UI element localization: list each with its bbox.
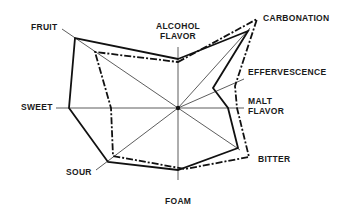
axis-effervescence: [178, 79, 244, 108]
label-effervescence: EFFERVESCENCE: [248, 67, 326, 77]
radar-axes: [56, 28, 250, 180]
series-dash-dot: [95, 19, 257, 169]
label-sweet: SWEET: [21, 102, 53, 112]
axis-bitter: [178, 108, 240, 150]
label-foam: FOAM: [165, 196, 191, 206]
label-fruit: FRUIT: [31, 22, 58, 32]
label-malt-flavor: MALT FLAVOR: [248, 96, 284, 116]
label-carbonation: CARBONATION: [263, 13, 329, 23]
label-bitter: BITTER: [258, 154, 291, 164]
axis-sour: [96, 108, 178, 170]
label-alcohol-flavor: ALCOHOL FLAVOR: [154, 21, 202, 41]
label-sour: SOUR: [66, 167, 92, 177]
center-point: [176, 106, 180, 110]
